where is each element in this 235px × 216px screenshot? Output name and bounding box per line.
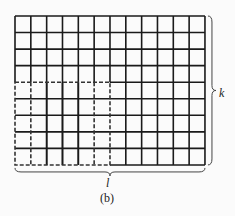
- figure-caption: (b): [100, 191, 114, 206]
- grid-diagram: [0, 0, 235, 216]
- bottom-brace: [15, 168, 205, 176]
- right-brace: [208, 16, 216, 165]
- l-label: l: [106, 176, 109, 191]
- k-label: k: [219, 86, 224, 101]
